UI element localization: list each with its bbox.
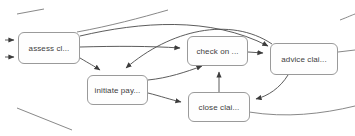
node-advice-claim[interactable]: advice clai... xyxy=(270,43,338,75)
node-close-claim[interactable]: close clai... xyxy=(188,92,250,122)
edge-advice-to-close xyxy=(256,75,288,99)
edge-assess-to-check xyxy=(80,46,180,48)
background-curve-upper xyxy=(77,10,168,32)
process-diagram-canvas: assess cl... initiate pay... check on ..… xyxy=(0,0,355,136)
node-label: close clai... xyxy=(196,103,243,112)
edge-check-to-advice xyxy=(248,52,263,53)
background-curve-right xyxy=(338,50,355,52)
edge-initiate-to-check xyxy=(148,66,202,80)
node-check-on[interactable]: check on ... xyxy=(187,36,248,66)
node-assess-claim[interactable]: assess cl... xyxy=(18,32,80,64)
background-curve-top-left xyxy=(17,9,44,14)
background-curve-bottom-left xyxy=(17,108,72,130)
edge-initiate-to-close xyxy=(148,93,181,102)
node-label: advice clai... xyxy=(278,55,329,64)
incoming-edges xyxy=(5,40,14,57)
node-initiate-payment[interactable]: initiate pay... xyxy=(87,75,148,105)
node-label: assess cl... xyxy=(26,44,73,53)
background-curve-bottom-right xyxy=(249,106,355,115)
node-label: check on ... xyxy=(193,47,241,56)
node-label: initiate pay... xyxy=(92,86,144,95)
background-curve-corner xyxy=(340,14,355,20)
edge-assess-to-initiate xyxy=(80,58,100,70)
